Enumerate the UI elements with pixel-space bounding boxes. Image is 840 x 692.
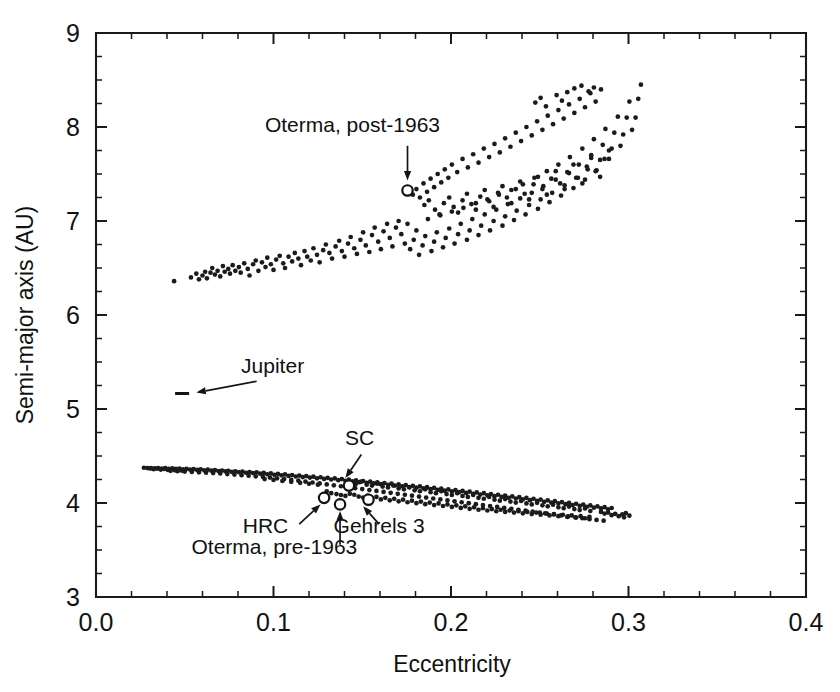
data-point [233,268,238,273]
data-point [435,172,440,177]
data-point [544,104,549,109]
data-point [594,518,599,523]
data-point [602,511,607,516]
data-point [482,188,487,193]
data-point [540,503,545,508]
data-point [583,506,588,511]
data-point [583,516,588,521]
data-point [226,267,231,272]
annotation-gehrels-3: Gehrels 3 [334,506,425,536]
data-point [547,200,552,205]
data-point [367,488,372,493]
data-point [256,268,261,273]
data-series-layer [142,82,644,523]
data-point [339,493,344,498]
data-point [385,221,390,226]
data-point [428,176,433,181]
data-point [274,257,279,262]
annotation-sc: SC [345,426,374,478]
data-point [598,174,603,179]
data-point [281,261,286,266]
data-point [405,221,410,226]
data-point [367,250,372,255]
data-point [540,187,545,192]
data-point [376,239,381,244]
data-point [203,269,208,274]
data-point [531,182,536,187]
x-tick-label: 0.1 [256,608,291,636]
data-point [556,162,561,167]
data-point [414,501,419,506]
data-point [481,496,486,501]
data-point [580,146,585,151]
data-point [487,199,492,204]
data-point [609,513,614,518]
data-point [445,498,450,503]
data-point [444,492,449,497]
data-point [559,193,564,198]
data-point [425,190,430,195]
data-point [579,83,584,88]
data-point [560,98,565,103]
data-point [624,115,629,120]
data-point [324,482,329,487]
highlight-marker [319,493,329,503]
data-point [603,127,608,132]
data-point [476,495,481,500]
data-point [503,510,508,515]
highlight-points-layer [319,185,413,509]
data-point [438,497,443,502]
data-point [481,506,486,511]
data-point [553,177,558,182]
data-point [456,210,461,215]
data-point [452,499,457,504]
data-point [232,472,237,477]
y-tick-label: 5 [66,395,80,423]
data-point [543,511,548,516]
data-point [556,108,561,113]
data-point [253,474,258,479]
data-point [292,251,297,256]
data-point [190,470,195,475]
data-point [545,504,550,509]
data-point [584,164,589,169]
data-point [246,473,251,478]
data-point [380,484,385,489]
data-point [290,259,295,264]
data-point [593,99,598,104]
data-point [576,162,581,167]
data-point [308,258,313,263]
data-point [239,473,244,478]
data-point [307,481,312,486]
data-point [491,219,496,224]
data-point [358,237,363,242]
y-tick-label: 4 [66,489,80,517]
data-point [283,266,288,271]
data-point [442,167,447,172]
data-point [417,494,422,499]
data-point [569,513,574,518]
data-point [513,187,518,192]
data-point [616,514,621,519]
data-point [469,202,474,207]
data-point [408,247,413,252]
data-point [210,266,215,271]
data-point [513,500,518,505]
data-point [503,497,508,502]
data-point [529,190,534,195]
x-axis-title: Eccentricity [393,651,511,677]
data-point [451,205,456,210]
data-point [324,242,329,247]
data-point [245,267,250,272]
data-point [538,96,543,101]
x-axis-ticks [96,33,806,597]
data-point [446,175,451,180]
data-point [540,127,545,132]
data-point [550,190,555,195]
data-point [630,127,635,132]
data-point [305,254,310,259]
data-point [427,500,432,505]
data-point [431,496,436,501]
data-point [601,518,606,523]
data-point [339,484,344,489]
